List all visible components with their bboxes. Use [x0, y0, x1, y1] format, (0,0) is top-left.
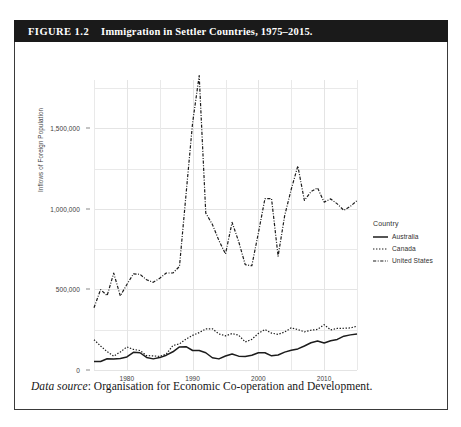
y-tick-mark — [86, 208, 90, 209]
legend-entries: AustraliaCanadaUnited States — [373, 231, 445, 266]
legend-item-label: Australia — [392, 233, 419, 240]
series-lines — [94, 80, 357, 370]
series-line-united-states — [94, 76, 357, 308]
figure-title-bar: FIGURE 1.2 Immigration in Settler Countr… — [14, 20, 448, 42]
figure-title-group: FIGURE 1.2 Immigration in Settler Countr… — [28, 20, 313, 42]
y-axis-tick-labels: 0500,0001,000,0001,500,000 — [35, 80, 90, 370]
legend-item-canada[interactable]: Canada — [373, 243, 445, 254]
figure-container: FIGURE 1.2 Immigration in Settler Countr… — [14, 20, 448, 410]
legend-item-australia[interactable]: Australia — [373, 231, 445, 242]
y-tick-label: 1,500,000 — [50, 125, 80, 132]
y-tick-mark — [86, 370, 90, 371]
legend-line-swatch-icon — [373, 257, 388, 265]
legend-title: Country — [373, 220, 445, 227]
legend-item-label: Canada — [392, 245, 416, 252]
legend-line-swatch-icon — [373, 245, 388, 253]
source-caption: Data source: Organisation for Economic C… — [31, 380, 435, 392]
page-title: Immigration in Settler Countries, 1975–2… — [101, 26, 313, 37]
y-tick-label: 500,000 — [56, 286, 80, 293]
y-tick-label: 0 — [76, 367, 80, 374]
source-label: Data source — [31, 380, 88, 392]
y-tick-mark — [86, 289, 90, 290]
chart-legend: Country AustraliaCanadaUnited States — [373, 220, 445, 267]
legend-item-label: United States — [392, 257, 433, 264]
figure-body: Inflows of Foreign Population 0500,0001,… — [14, 42, 448, 410]
figure-number: FIGURE 1.2 — [28, 26, 89, 37]
gridline-vertical — [357, 80, 358, 370]
y-tick-label: 1,000,000 — [50, 205, 80, 212]
legend-line-swatch-icon — [373, 233, 388, 241]
plot-area — [94, 80, 357, 370]
series-line-australia — [94, 334, 357, 362]
source-text: : Organisation for Economic Co-operation… — [88, 380, 373, 392]
chart-canvas: Inflows of Foreign Population 0500,0001,… — [15, 42, 447, 372]
gridline-horizontal — [94, 370, 357, 371]
y-tick-mark — [86, 128, 90, 129]
legend-item-united-states[interactable]: United States — [373, 255, 445, 266]
